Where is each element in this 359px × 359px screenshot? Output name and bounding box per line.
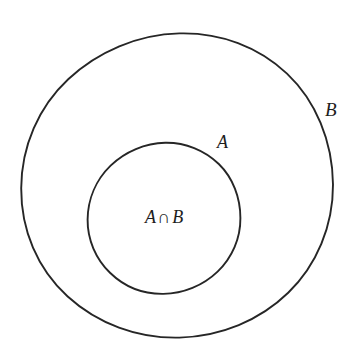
diagram-canvas (0, 0, 359, 359)
intersection-right-operand: B (172, 207, 184, 227)
intersection-left-operand: A (145, 207, 157, 227)
intersection-label: A∩B (145, 208, 184, 226)
intersection-operator-icon: ∩ (157, 207, 173, 227)
set-diagram-figure: B A A∩B (0, 0, 359, 359)
set-b-label: B (325, 100, 337, 119)
set-a-label: A (217, 133, 228, 151)
